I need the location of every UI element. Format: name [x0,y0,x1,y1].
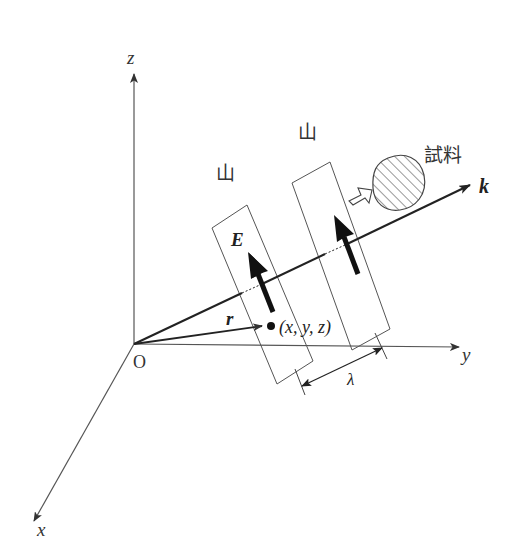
sample-label: 試料 [424,145,462,166]
position-vector-r-label: r [226,308,234,329]
e-field-label: E [230,229,244,250]
wavefront-plane-1 [212,205,313,384]
z-axis-label: z [126,47,135,68]
point-label: (x, y, z) [279,317,331,338]
sample-blob [373,155,425,210]
wave-diagram: z y x O k E r (x, y, z) [0,0,510,553]
e-field-arrow-1 [248,252,273,312]
y-axis [134,344,459,347]
crest-label-1: 山 [216,163,235,184]
point-marker [267,322,275,330]
y-axis-label: y [460,344,471,365]
crest-label-2: 山 [298,122,317,143]
x-axis [34,344,134,521]
propagation-arrow-icon [349,188,372,205]
origin-label: O [133,352,146,372]
e-field-arrow-2 [334,215,358,274]
x-axis-label: x [36,519,46,540]
wavelength-label: λ [346,370,354,389]
wavevector-k-label: k [479,175,489,197]
